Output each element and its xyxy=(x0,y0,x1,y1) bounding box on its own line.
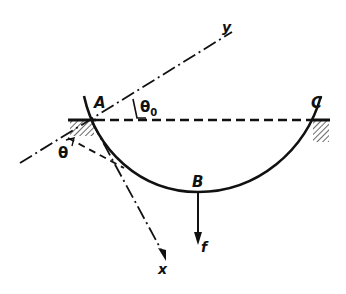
label-point-a: A xyxy=(94,96,106,111)
diagram-canvas: A C B y x f θ0 θ xyxy=(0,0,346,294)
label-load-f: f xyxy=(201,240,207,254)
diagram-svg xyxy=(0,0,346,294)
y-axis-line xyxy=(20,32,232,163)
label-y-axis: y xyxy=(222,20,231,34)
theta0-symbol: θ xyxy=(140,98,150,116)
label-point-b: B xyxy=(192,175,203,190)
left-wall-hatch xyxy=(70,120,94,136)
label-theta: θ xyxy=(58,146,68,161)
label-x-axis: x xyxy=(158,262,167,276)
x-axis-arrowhead xyxy=(158,248,166,261)
label-point-c: C xyxy=(311,96,322,111)
theta0-subscript: 0 xyxy=(150,107,157,118)
tangent-dashed-line xyxy=(68,138,124,168)
right-wall-hatch xyxy=(313,120,329,142)
right-wall-support xyxy=(312,120,330,142)
label-theta0: θ0 xyxy=(140,100,157,118)
